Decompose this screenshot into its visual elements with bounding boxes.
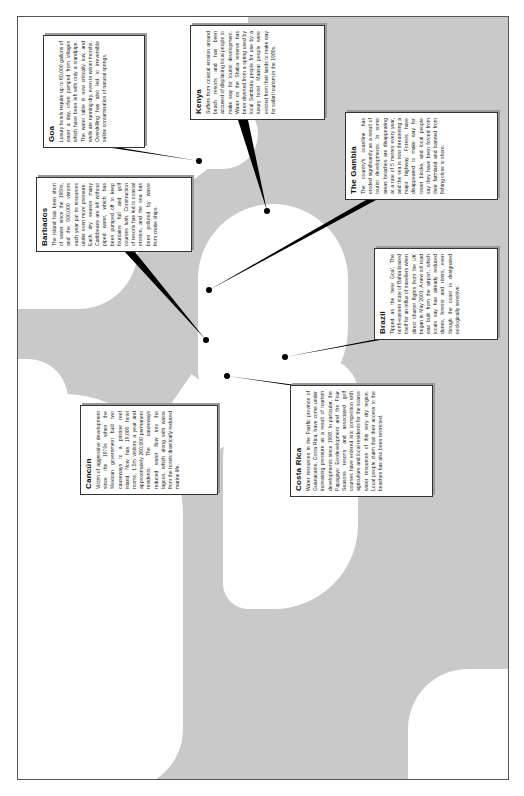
callout-kenya: Kenya Suffers from coastal erosion aroun… bbox=[190, 25, 325, 120]
pointer-barbados bbox=[125, 252, 206, 340]
dot-barbados bbox=[203, 337, 209, 343]
callout-cancun: Cancún Victim of aggressive development … bbox=[80, 405, 218, 495]
dot-brazil bbox=[282, 354, 288, 360]
callout-text: Victim of aggressive development since t… bbox=[95, 411, 181, 489]
callout-text: Water resources in the Pacific province … bbox=[305, 391, 384, 491]
callout-title: Brazil bbox=[378, 254, 387, 334]
callout-title: Barbados bbox=[40, 183, 49, 246]
callout-title: Kenya bbox=[194, 31, 203, 114]
callout-text: The country's coastline has eroded signi… bbox=[360, 118, 446, 194]
callout-costa-rica: Costa Rica Water resources in the Pacifi… bbox=[290, 385, 433, 497]
pointer-goa bbox=[112, 148, 199, 161]
dot-costa-rica bbox=[224, 373, 230, 379]
pointer-gambia bbox=[209, 200, 376, 290]
dot-gambia bbox=[206, 287, 212, 293]
callout-title: Costa Rica bbox=[294, 391, 303, 491]
callout-title: Goa bbox=[47, 41, 56, 142]
callout-title: The Gambia bbox=[349, 118, 358, 194]
callout-text: Tipped as the 'new Goa', The north-easte… bbox=[389, 254, 461, 334]
callout-title: Cancún bbox=[84, 411, 93, 489]
callout-text: Luxury hotels require up to 60,000 gallo… bbox=[58, 41, 108, 142]
dot-kenya bbox=[264, 208, 270, 214]
callout-gambia: The Gambia The country's coastline has e… bbox=[345, 112, 498, 200]
pointer-kenya bbox=[238, 120, 267, 211]
callout-goa: Goa Luxury hotels require up to 60,000 g… bbox=[43, 35, 145, 148]
callout-brazil: Brazil Tipped as the 'new Goa', The nort… bbox=[374, 248, 498, 340]
callout-barbados: Barbados The island has been short of wa… bbox=[36, 177, 192, 252]
pointer-brazil bbox=[285, 340, 380, 357]
pointer-costa-rica bbox=[227, 376, 296, 385]
callout-text: The island has been short of water since… bbox=[51, 183, 159, 246]
rotated-figure: Goa Luxury hotels require up to 60,000 g… bbox=[0, 0, 524, 796]
callout-text: Suffers from coastal erosion around beac… bbox=[205, 31, 277, 114]
dot-goa bbox=[196, 158, 202, 164]
